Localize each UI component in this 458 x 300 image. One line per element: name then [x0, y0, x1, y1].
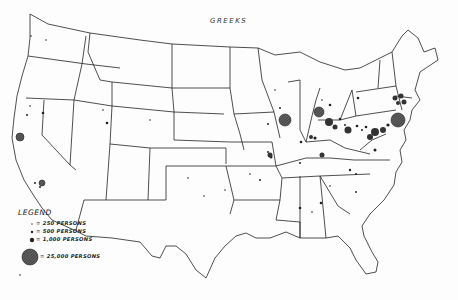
map-figure: GREEKS	[0, 0, 458, 300]
legend-item-1000: = 1,000 PERSONS	[36, 236, 92, 242]
medium-markers	[268, 94, 407, 158]
large-markers	[16, 107, 405, 186]
legend-item-500: = 500 PERSONS	[36, 228, 86, 234]
state-borders	[26, 33, 412, 238]
legend-heading: LEGEND	[18, 208, 52, 217]
legend-item-250: = 250 PERSONS	[36, 220, 86, 226]
legend-item-25000: = 25,000 PERSONS	[40, 253, 100, 259]
